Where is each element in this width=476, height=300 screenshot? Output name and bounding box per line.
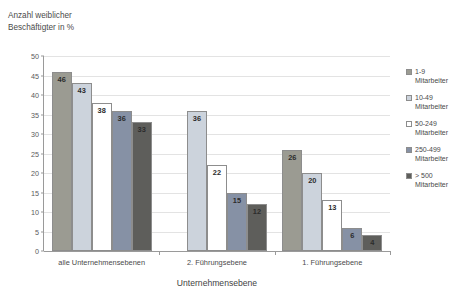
bar-slot: 26 bbox=[282, 56, 302, 251]
bar-value-label: 12 bbox=[253, 207, 261, 216]
category-separator-tick bbox=[159, 251, 160, 255]
legend-row: 10-49 bbox=[406, 94, 474, 102]
bar-slot: 36 bbox=[112, 56, 132, 251]
bar-slot: 36 bbox=[187, 56, 207, 251]
bar-value-label: 36 bbox=[118, 114, 126, 123]
bar[interactable]: 20 bbox=[302, 173, 322, 251]
bar-slot: 12 bbox=[247, 56, 267, 251]
bar-value-label: 43 bbox=[78, 86, 86, 95]
bar-value-label: 6 bbox=[350, 231, 354, 240]
bar-slot: 15 bbox=[227, 56, 247, 251]
bar-group: 26201364 bbox=[275, 56, 390, 251]
legend-label-secondary: Mitarbeiter bbox=[415, 180, 474, 189]
bar-value-label: 13 bbox=[328, 203, 336, 212]
y-tick-label-15: 15 bbox=[31, 188, 39, 197]
legend-swatch-icon bbox=[406, 121, 412, 127]
bar-group: 4643383633 bbox=[44, 56, 159, 251]
legend-label-secondary: Mitarbeiter bbox=[415, 154, 474, 163]
bar-value-label: 15 bbox=[233, 196, 241, 205]
y-tick-label-0: 0 bbox=[35, 247, 39, 256]
x-tick-label-1: 2. Führungsebene bbox=[159, 258, 274, 267]
bar-value-label: 36 bbox=[193, 114, 201, 123]
bar-value-label: 20 bbox=[308, 176, 316, 185]
y-tick-label-25: 25 bbox=[31, 149, 39, 158]
bar-value-label: 38 bbox=[98, 106, 106, 115]
y-tick-label-30: 30 bbox=[31, 130, 39, 139]
bar[interactable]: 22 bbox=[207, 165, 227, 251]
legend-row: > 500 bbox=[406, 172, 474, 180]
bar-slot: 22 bbox=[207, 56, 227, 251]
bar-slot bbox=[167, 56, 187, 251]
bar[interactable]: 12 bbox=[247, 204, 267, 251]
legend-label-primary: > 500 bbox=[415, 172, 433, 180]
bar-value-label: 26 bbox=[288, 153, 296, 162]
y-tick-label-50: 50 bbox=[31, 52, 39, 61]
bar-chart: Anzahl weiblicher Beschäftigter in % 051… bbox=[0, 0, 476, 300]
y-tick-label-40: 40 bbox=[31, 91, 39, 100]
bar[interactable]: 26 bbox=[282, 150, 302, 251]
legend-label-secondary: Mitarbeiter bbox=[415, 128, 474, 137]
bar-slot: 6 bbox=[342, 56, 362, 251]
y-tick-label-45: 45 bbox=[31, 71, 39, 80]
bar-slot: 20 bbox=[302, 56, 322, 251]
bar-slot: 13 bbox=[322, 56, 342, 251]
bar[interactable]: 13 bbox=[322, 200, 342, 251]
legend-label-primary: 250-499 bbox=[415, 146, 441, 154]
y-tick-label-20: 20 bbox=[31, 169, 39, 178]
bar[interactable]: 36 bbox=[112, 111, 132, 251]
legend-label-primary: 10-49 bbox=[415, 94, 433, 102]
legend-item[interactable]: > 500Mitarbeiter bbox=[406, 172, 474, 189]
x-axis-tick-labels: alle Unternehmensebenen2. Führungsebene1… bbox=[44, 258, 390, 267]
y-tick-label-10: 10 bbox=[31, 208, 39, 217]
bar-value-label: 33 bbox=[138, 125, 146, 134]
bar-value-label: 4 bbox=[370, 238, 374, 247]
legend-swatch-icon bbox=[406, 173, 412, 179]
legend-item[interactable]: 50-249Mitarbeiter bbox=[406, 120, 474, 137]
legend-swatch-icon bbox=[406, 95, 412, 101]
legend-swatch-icon bbox=[406, 147, 412, 153]
bar-slot: 4 bbox=[362, 56, 382, 251]
legend-label-secondary: Mitarbeiter bbox=[415, 102, 474, 111]
legend-item[interactable]: 10-49Mitarbeiter bbox=[406, 94, 474, 111]
bar[interactable]: 43 bbox=[72, 83, 92, 251]
bar-groups: 46433836333622151226201364 bbox=[44, 56, 390, 251]
legend-label-primary: 50-249 bbox=[415, 120, 437, 128]
y-axis-title-line-2: Beschäftigter in % bbox=[8, 22, 74, 34]
legend-label-primary: 1-9 bbox=[415, 68, 425, 76]
legend-swatch-icon bbox=[406, 69, 412, 75]
legend-row: 250-499 bbox=[406, 146, 474, 154]
bar-value-label: 22 bbox=[213, 168, 221, 177]
legend-item[interactable]: 1-9Mitarbeiter bbox=[406, 68, 474, 85]
bar[interactable]: 4 bbox=[362, 235, 382, 251]
x-tick-label-2: 1. Führungsebene bbox=[275, 258, 390, 267]
x-axis-end-tick bbox=[390, 251, 391, 255]
gridline-0 bbox=[44, 251, 390, 252]
bar-group: 36221512 bbox=[159, 56, 274, 251]
y-axis-title: Anzahl weiblicher Beschäftigter in % bbox=[8, 10, 74, 34]
legend: 1-9Mitarbeiter10-49Mitarbeiter50-249Mita… bbox=[406, 68, 474, 198]
bar[interactable]: 6 bbox=[342, 228, 362, 251]
bar-slot: 38 bbox=[92, 56, 112, 251]
legend-row: 1-9 bbox=[406, 68, 474, 76]
legend-row: 50-249 bbox=[406, 120, 474, 128]
legend-item[interactable]: 250-499Mitarbeiter bbox=[406, 146, 474, 163]
bar[interactable]: 36 bbox=[187, 111, 207, 251]
bar[interactable]: 38 bbox=[92, 103, 112, 251]
x-axis-title: Unternehmensebene bbox=[44, 278, 390, 288]
bar[interactable]: 46 bbox=[52, 72, 72, 251]
bar[interactable]: 15 bbox=[227, 193, 247, 252]
bar[interactable]: 33 bbox=[132, 122, 152, 251]
x-tick-label-0: alle Unternehmensebenen bbox=[44, 258, 159, 267]
plot-area: 05101520253035404550 4643383633362215122… bbox=[44, 56, 390, 251]
y-axis-title-line-1: Anzahl weiblicher bbox=[8, 10, 74, 22]
bar-slot: 46 bbox=[52, 56, 72, 251]
category-separator-tick bbox=[275, 251, 276, 255]
y-tick-label-5: 5 bbox=[35, 227, 39, 236]
y-tick-label-35: 35 bbox=[31, 110, 39, 119]
bar-value-label: 46 bbox=[58, 75, 66, 84]
bar-slot: 43 bbox=[72, 56, 92, 251]
bar-slot: 33 bbox=[132, 56, 152, 251]
legend-label-secondary: Mitarbeiter bbox=[415, 76, 474, 85]
